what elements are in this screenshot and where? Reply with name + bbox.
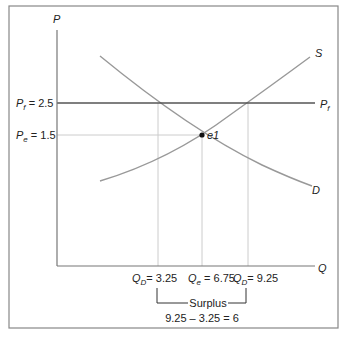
quantity-equilibrium-label: Qe = 6.75 bbox=[188, 272, 235, 287]
equilibrium-price-label: Pe = 1.5 bbox=[16, 129, 56, 144]
surplus-bracket-left bbox=[157, 288, 188, 303]
price-axis-label: P bbox=[53, 13, 61, 25]
surplus-calculation: 9.25 – 3.25 = 6 bbox=[165, 312, 239, 324]
surplus-bracket-right bbox=[228, 288, 246, 303]
quantity-supplied-label: QD= 9.25 bbox=[233, 272, 278, 287]
equilibrium-point-label: e1 bbox=[207, 129, 219, 141]
quantity-axis-label: Q bbox=[318, 262, 327, 274]
price-floor-diagram: P Q Pf = 2.5 Pe = 1.5 Pf S D e1 QD= 3.25… bbox=[0, 0, 345, 339]
supply-curve bbox=[100, 57, 310, 181]
supply-label: S bbox=[315, 47, 323, 59]
quantity-demanded-label: QD= 3.25 bbox=[132, 272, 177, 287]
price-floor-end-label: Pf bbox=[320, 98, 330, 113]
demand-label: D bbox=[312, 184, 320, 196]
surplus-label: Surplus bbox=[189, 297, 227, 309]
equilibrium-point bbox=[199, 132, 204, 137]
demand-curve bbox=[100, 56, 312, 186]
price-floor-label: Pf = 2.5 bbox=[16, 97, 53, 112]
